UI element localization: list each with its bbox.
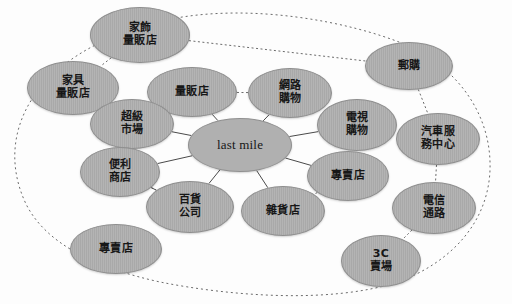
dashed-link-auto-service-center-to-telecom-channel [436,165,437,182]
solid-link-last-mile-to-grocery-store [257,171,268,188]
node-grocery-store[interactable]: 雜貨店 [241,186,325,236]
node-online-shopping[interactable]: 網路購物 [248,68,332,118]
solid-link-last-mile-to-department-store [209,170,220,184]
node-label-line: 通路 [423,208,446,221]
dashed-link-mail-order-to-auto-service-center [418,89,428,113]
solid-link-last-mile-to-supermarket [172,132,191,136]
node-3c-store[interactable]: 3C賣場 [341,235,421,287]
node-label-line: 專賣店 [99,243,134,256]
node-auto-service-center[interactable]: 汽車服務中心 [396,113,480,165]
node-label-line: 專賣店 [331,170,366,183]
node-home-decor-superstore[interactable]: 家飾量販店 [90,7,190,63]
node-specialty-store-inner[interactable]: 專賣店 [307,151,389,201]
node-label-line: 量販店 [175,86,210,99]
node-label-line: 雜貨店 [266,205,301,218]
dashed-link-telecom-channel-to-3c-store [403,230,412,239]
node-department-store[interactable]: 百貨公司 [146,181,234,233]
node-telecom-channel[interactable]: 電信通路 [392,182,476,234]
node-tv-shopping[interactable]: 電視購物 [317,99,397,151]
node-label-line: 賣場 [370,261,393,274]
node-mail-order[interactable]: 郵購 [365,42,453,90]
node-convenience-store[interactable]: 便利商店 [80,147,160,197]
node-label-line: 量販店 [56,88,91,101]
solid-link-last-mile-to-specialty-store-inner [286,158,311,165]
solid-link-last-mile-to-convenience-store [158,156,193,164]
node-label-line: 購物 [279,93,302,106]
node-last-mile[interactable]: last mile [188,118,292,172]
dashed-link-home-decor-superstore-to-furniture-superstore [100,58,111,66]
node-label-line: 商店 [109,172,132,185]
node-label-line: 郵購 [398,60,421,73]
solid-link-last-mile-to-online-shopping [263,115,269,121]
node-label-line: 購物 [346,125,369,138]
node-specialty-store-outer[interactable]: 專賣店 [70,224,162,274]
solid-link-last-mile-to-tv-shopping [289,132,318,137]
dashed-link-home-decor-superstore-to-mail-order [189,41,366,61]
node-supermarket[interactable]: 超級市場 [90,99,174,149]
node-label-line: 市場 [121,124,144,137]
diagram-canvas: 家飾量販店家具量販店郵購汽車服務中心電信通路3C賣場專賣店量販店網路購物電視購物… [0,0,512,304]
node-label-line: 量販店 [123,35,158,48]
node-label-line: last mile [217,138,263,153]
node-label-line: 務中心 [421,139,456,152]
node-label-line: 公司 [179,207,202,220]
